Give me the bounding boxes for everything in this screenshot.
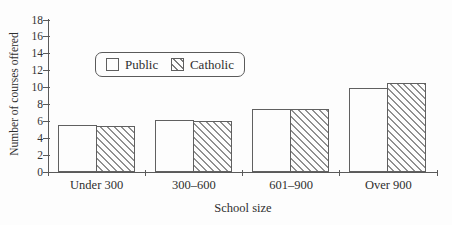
bar-public-4 — [349, 88, 388, 172]
legend-swatch-catholic-icon — [171, 58, 184, 71]
y-tick-label: 14 — [21, 47, 43, 60]
x-axis-title: School size — [48, 201, 438, 216]
bar-catholic-2 — [193, 121, 232, 172]
x-axis-line — [48, 172, 438, 173]
y-tick-label: 8 — [21, 98, 43, 111]
y-tick-label: 2 — [21, 149, 43, 162]
x-category-label: 300–600 — [146, 178, 242, 192]
legend-label-catholic: Catholic — [190, 58, 234, 71]
y-tick — [43, 121, 50, 122]
y-tick-label: 18 — [21, 14, 43, 27]
y-tick — [43, 20, 50, 21]
y-tick — [43, 87, 50, 88]
y-tick-label: 16 — [21, 30, 43, 43]
x-tick — [242, 170, 243, 176]
y-axis-line — [48, 19, 49, 173]
y-axis-title: Number of courses offered — [8, 18, 20, 171]
y-tick — [43, 155, 50, 156]
legend-item-public: Public — [106, 58, 158, 71]
x-tick — [437, 170, 438, 176]
x-category-label: 601–900 — [243, 178, 339, 192]
y-tick — [43, 36, 50, 37]
y-tick — [43, 53, 50, 54]
y-tick-label: 12 — [21, 64, 43, 77]
x-tick — [339, 170, 340, 176]
y-tick — [43, 138, 50, 139]
grouped-bar-chart: Number of courses offered Public Catholi… — [0, 0, 452, 225]
legend-label-public: Public — [125, 58, 158, 71]
y-tick-label: 4 — [21, 132, 43, 145]
y-tick — [43, 104, 50, 105]
legend-item-catholic: Catholic — [171, 58, 234, 71]
y-tick-label: 10 — [21, 81, 43, 94]
x-tick — [145, 170, 146, 176]
x-tick — [48, 170, 49, 176]
legend-swatch-public-icon — [106, 58, 119, 71]
y-tick — [43, 172, 50, 173]
y-tick — [43, 70, 50, 71]
x-category-label: Over 900 — [340, 178, 436, 192]
y-tick-label: 6 — [21, 115, 43, 128]
bar-public-3 — [252, 109, 291, 172]
bar-catholic-3 — [290, 109, 329, 172]
x-category-label: Under 300 — [49, 178, 145, 192]
y-tick-label: 0 — [21, 166, 43, 179]
legend: Public Catholic — [95, 52, 245, 77]
bar-catholic-1 — [96, 126, 135, 172]
bar-catholic-4 — [387, 83, 426, 172]
bar-public-2 — [155, 120, 194, 172]
bar-public-1 — [58, 125, 97, 172]
